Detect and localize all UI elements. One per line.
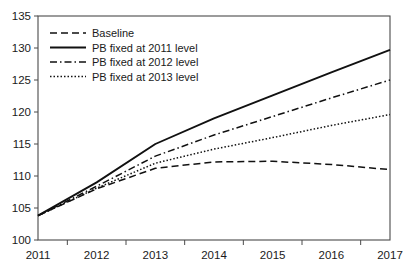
- x-tick-label: 2012: [84, 249, 110, 261]
- x-tick-label: 2016: [319, 249, 345, 261]
- series-line-2: [38, 80, 390, 216]
- y-tick-label: 130: [12, 42, 31, 54]
- x-axis-ticks: [67, 240, 360, 245]
- x-tick-label: 2013: [143, 249, 169, 261]
- y-tick-label: 115: [13, 138, 31, 150]
- x-axis-tick-labels: 2011201220132014201520162017: [26, 249, 403, 261]
- data-series-group: [38, 50, 390, 216]
- y-tick-label: 110: [13, 170, 31, 182]
- y-tick-label: 105: [12, 202, 31, 214]
- y-tick-label: 100: [12, 234, 31, 246]
- legend-label-0: Baseline: [92, 27, 134, 39]
- x-tick-label: 2015: [260, 249, 286, 261]
- y-axis-ticks: [34, 16, 38, 240]
- y-axis-tick-labels: 100105110115120125130135: [12, 10, 31, 246]
- y-tick-label: 125: [12, 74, 31, 86]
- chart-figure: 100105110115120125130135 201120122013201…: [0, 0, 412, 278]
- x-tick-label: 2017: [377, 249, 403, 261]
- legend-label-2: PB fixed at 2012 level: [92, 56, 198, 68]
- legend-label-3: PB fixed at 2013 level: [92, 71, 198, 83]
- plot-frame: [38, 16, 390, 240]
- y-tick-label: 135: [12, 10, 31, 22]
- legend-label-1: PB fixed at 2011 level: [92, 42, 198, 54]
- x-tick-label: 2014: [201, 249, 227, 261]
- line-chart: 100105110115120125130135 201120122013201…: [0, 0, 412, 278]
- y-tick-label: 120: [12, 106, 31, 118]
- chart-legend: BaselinePB fixed at 2011 levelPB fixed a…: [50, 27, 198, 83]
- x-tick-label: 2011: [26, 249, 51, 261]
